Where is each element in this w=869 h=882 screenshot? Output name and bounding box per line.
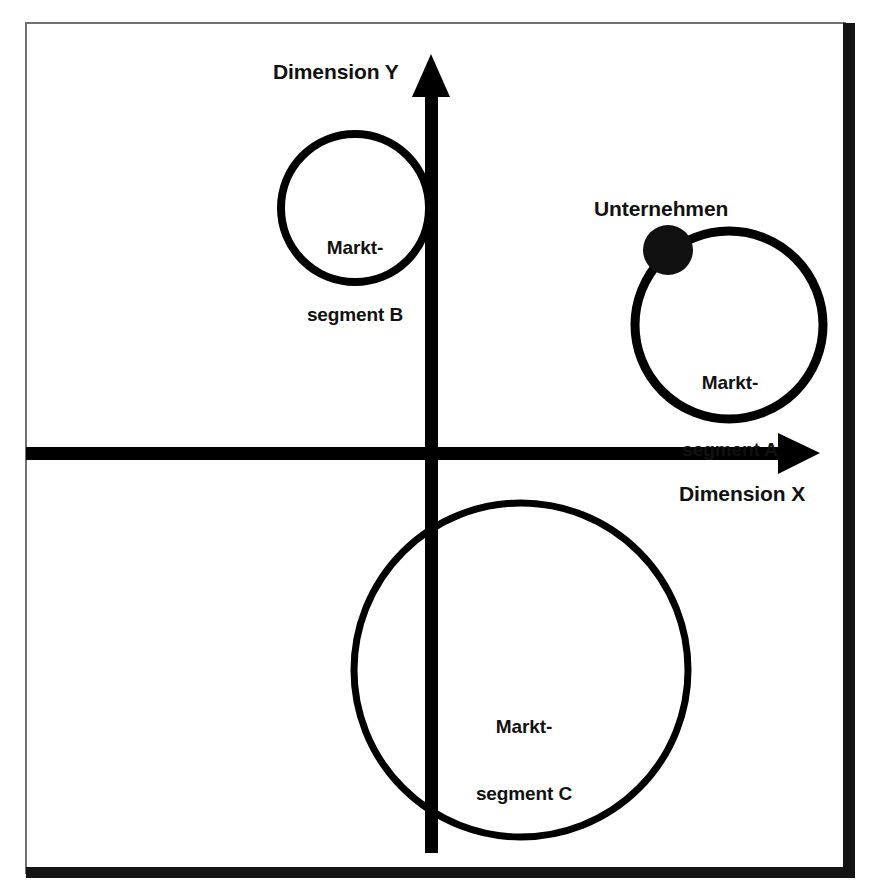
company-marker-dot-icon[interactable] [643, 225, 693, 275]
segment-c-label-line2: segment C [461, 783, 587, 805]
segment-a-label-line1: Markt- [667, 372, 793, 394]
company-label: Unternehmen [594, 197, 728, 222]
segment-b-label: Markt- segment B [292, 192, 418, 371]
segment-c-label: Markt- segment C [461, 671, 587, 850]
segment-a-label-line2: segment A [667, 439, 793, 461]
y-axis-arrowhead-icon [412, 54, 450, 97]
segment-a-label: Markt- segment A [667, 327, 793, 506]
y-axis-label: Dimension Y [273, 60, 399, 85]
segment-b-label-line2: segment B [292, 304, 418, 326]
segment-b-label-line1: Markt- [292, 237, 418, 259]
diagram-canvas: Dimension Y Dimension X Unternehmen Mark… [0, 0, 869, 882]
segment-c-label-line1: Markt- [461, 716, 587, 738]
